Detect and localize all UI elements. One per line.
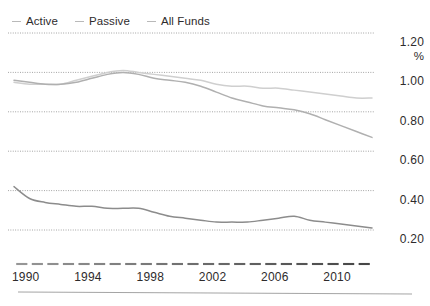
y-axis-unit-label: % [414,50,424,62]
x-tick-label: 2006 [261,270,289,284]
y-tick-label: 0.20 [400,232,424,246]
y-tick-label: 1.00 [400,74,424,88]
x-tick-label: 2002 [199,270,227,284]
chart-gridlines [8,33,374,230]
x-tick-label: 1994 [74,270,102,284]
y-tick-label: 0.40 [400,193,424,207]
x-tick-label: 1990 [12,270,40,284]
chart-series-lines [14,70,372,228]
x-tick-label: 1998 [137,270,165,284]
y-tick-label: 0.60 [400,153,424,167]
y-tick-label: 1.20 [400,35,424,49]
series-line-passive [14,187,372,228]
chart-figure: Active Passive All Funds 1.201.000.800.6… [0,0,430,306]
chart-plot-area [0,0,430,306]
y-tick-label: 0.80 [400,114,424,128]
figure-bottom-rule [18,292,412,294]
x-tick-label: 2010 [323,270,351,284]
